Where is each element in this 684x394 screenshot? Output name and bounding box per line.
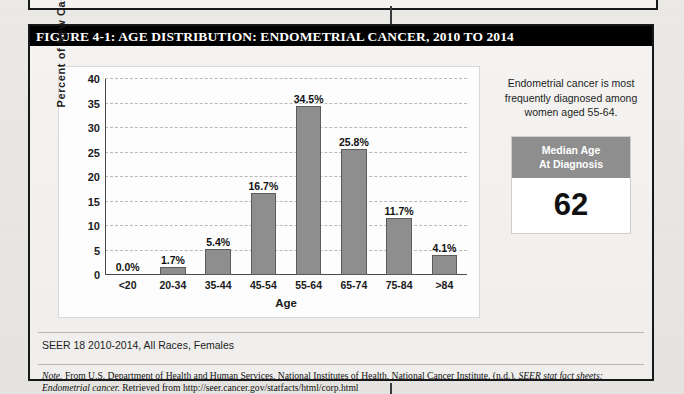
bar-slot: 16.7%45-54: [241, 79, 286, 275]
note-italic-2: Endometrial cancer.: [42, 382, 120, 393]
bar-slot: 0.0%<20: [105, 79, 150, 275]
x-axis-title: Age: [105, 297, 467, 309]
bar: 4.1%: [432, 255, 457, 275]
y-axis-tick-label: 10: [88, 220, 100, 232]
y-axis-title: Percent of New Cases: [55, 0, 67, 119]
bar-value-label: 5.4%: [206, 236, 230, 248]
x-axis-tick-label: 45-54: [250, 279, 277, 291]
source-line: SEER 18 2010-2014, All Races, Females: [42, 339, 234, 351]
bar-value-label: 11.7%: [385, 205, 414, 217]
y-axis-tick-label: 20: [88, 171, 100, 183]
y-axis-tick-label: 5: [94, 245, 100, 257]
bar-slot: 34.5%55-64: [286, 79, 331, 275]
note-italic-1: SEER stat fact sheets:: [518, 370, 602, 381]
bar-slot: 1.7%20-34: [150, 79, 195, 275]
note-text-2: Retrieved from http://seer.cancer.gov/st…: [120, 382, 359, 393]
y-axis-tick-label: 0: [94, 269, 100, 281]
separator-above-source: [38, 332, 644, 333]
bar-slot: 5.4%35-44: [196, 79, 241, 275]
bar-slot: 4.1%>84: [422, 79, 467, 275]
y-axis-tick-label: 40: [88, 73, 100, 85]
bar-slot: 11.7%75-84: [377, 79, 422, 275]
preceding-content-box: [28, 0, 658, 10]
bar: 5.4%: [205, 249, 230, 275]
callout-text: Endometrial cancer is most frequently di…: [500, 76, 642, 120]
median-age-heading-line1: Median Age: [514, 143, 628, 157]
x-axis-tick-label: 65-74: [340, 279, 367, 291]
median-age-heading-line2: At Diagnosis: [514, 157, 628, 171]
x-axis-tick-label: >84: [435, 279, 453, 291]
bar: 16.7%: [251, 193, 276, 275]
median-age-value: 62: [512, 178, 630, 233]
bar: 34.5%: [296, 106, 321, 275]
median-age-heading: Median Age At Diagnosis: [512, 137, 630, 178]
column-divider-top: [390, 6, 392, 26]
bar-value-label: 0.0%: [116, 261, 140, 273]
bar-value-label: 25.8%: [339, 136, 369, 148]
bar-value-label: 1.7%: [161, 254, 185, 266]
plot-inner: 0510152025303540 0.0%<201.7%20-345.4%35-…: [105, 79, 467, 275]
bar-value-label: 4.1%: [432, 242, 456, 254]
plot-area: 0510152025303540 0.0%<201.7%20-345.4%35-…: [105, 79, 467, 275]
figure-container: FIGURE 4-1: AGE DISTRIBUTION: ENDOMETRIA…: [28, 24, 654, 381]
bar: 25.8%: [341, 149, 366, 275]
x-axis-tick-label: 20-34: [159, 279, 186, 291]
figure-title: FIGURE 4-1: AGE DISTRIBUTION: ENDOMETRIA…: [30, 26, 652, 46]
bar-series: 0.0%<201.7%20-345.4%35-4416.7%45-5434.5%…: [105, 79, 467, 275]
bar-value-label: 34.5%: [294, 93, 324, 105]
separator-above-note: [38, 364, 644, 365]
side-panel: Endometrial cancer is most frequently di…: [500, 76, 642, 234]
bar-slot: 25.8%65-74: [331, 79, 376, 275]
bar: 11.7%: [386, 218, 411, 275]
x-axis-tick-label: 35-44: [205, 279, 232, 291]
bar-value-label: 16.7%: [248, 180, 278, 192]
note-label: Note.: [42, 370, 63, 381]
figure-note: Note. From U.S. Department of Health and…: [42, 370, 640, 393]
median-age-box: Median Age At Diagnosis 62: [511, 136, 631, 234]
x-axis-tick-label: <20: [119, 279, 137, 291]
figure-body: Percent of New Cases 0510152025303540 0.…: [30, 46, 652, 379]
note-text-1: From U.S. Department of Health and Human…: [63, 370, 519, 381]
x-axis-tick-label: 75-84: [386, 279, 413, 291]
chart-card: Percent of New Cases 0510152025303540 0.…: [58, 66, 480, 318]
y-axis-tick-label: 25: [88, 147, 100, 159]
y-axis-tick-label: 35: [88, 98, 100, 110]
x-axis-tick-label: 55-64: [295, 279, 322, 291]
bar: 1.7%: [160, 267, 185, 275]
y-axis-tick-label: 30: [88, 122, 100, 134]
y-axis-tick-label: 15: [88, 196, 100, 208]
